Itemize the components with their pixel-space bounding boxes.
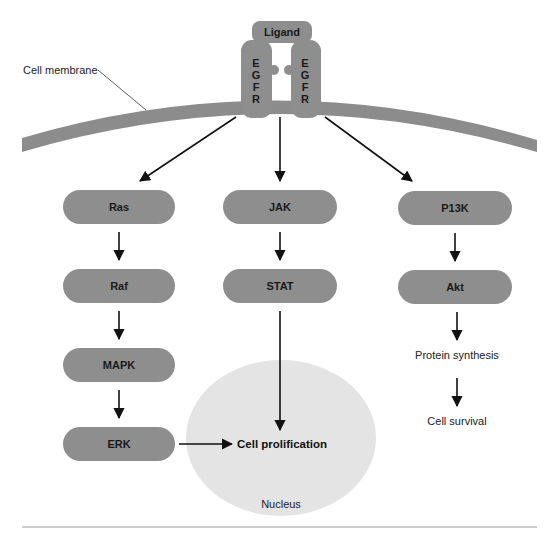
pill-jak: JAK [223, 190, 337, 224]
protein-synthesis-label: Protein synthesis [415, 349, 499, 361]
receptor-right-knob [284, 65, 294, 75]
svg-text:STAT: STAT [266, 280, 293, 292]
pill-akt: Akt [398, 270, 512, 304]
svg-text:MAPK: MAPK [103, 359, 135, 371]
svg-text:F: F [302, 81, 309, 93]
pill-erk: ERK [63, 427, 175, 461]
cell-proliferation-label: Cell prolification [237, 438, 327, 450]
svg-text:E: E [252, 57, 259, 69]
svg-text:Ras: Ras [109, 201, 129, 213]
pill-raf: Raf [63, 269, 175, 303]
nucleus-label: Nucleus [261, 498, 301, 510]
svg-text:E: E [301, 57, 308, 69]
arrow-egfr-to-p13k [325, 117, 412, 181]
pill-p13k: P13K [398, 191, 512, 225]
cell-membrane-leader-line [98, 70, 146, 110]
pill-ras: Ras [63, 190, 175, 224]
svg-text:F: F [253, 81, 260, 93]
svg-text:G: G [301, 69, 310, 81]
egfr-signaling-diagram: Cell membrane Ligand E G F R E G F R Nuc… [0, 0, 559, 544]
cell-membrane-label: Cell membrane [23, 64, 98, 76]
pill-stat: STAT [223, 269, 337, 303]
arrow-egfr-to-ras [140, 117, 236, 181]
receptor-left-knob [269, 65, 279, 75]
svg-text:ERK: ERK [107, 438, 130, 450]
egfr-right-letters: E G F R [301, 57, 310, 105]
svg-text:Akt: Akt [446, 281, 464, 293]
egfr-left-letters: E G F R [252, 57, 261, 105]
svg-text:P13K: P13K [441, 202, 469, 214]
svg-text:R: R [252, 93, 260, 105]
svg-text:R: R [301, 93, 309, 105]
svg-text:JAK: JAK [269, 201, 291, 213]
cell-survival-label: Cell survival [427, 415, 486, 427]
svg-text:Raf: Raf [110, 280, 128, 292]
svg-text:G: G [252, 69, 261, 81]
pill-mapk: MAPK [63, 348, 175, 382]
ligand-label: Ligand [264, 26, 300, 38]
